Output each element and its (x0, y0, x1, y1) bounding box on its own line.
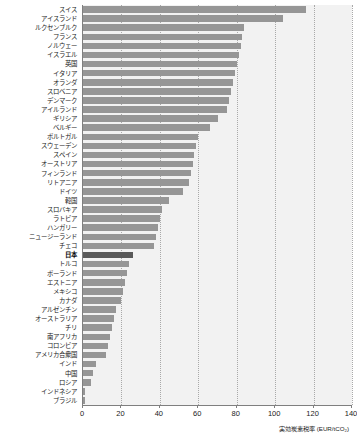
category-label: チェコ (59, 242, 77, 249)
bar-row (83, 215, 352, 222)
bar-row (83, 52, 352, 59)
category-label: スペイン (53, 151, 77, 158)
category-label: ポーランド (47, 270, 77, 277)
category-label: ポルトガル (47, 133, 77, 140)
x-tick-140 (351, 405, 352, 408)
bar (83, 379, 91, 386)
category-label: メキシコ (53, 288, 77, 295)
category-label: 南アフリカ (47, 333, 77, 340)
bar-row (83, 270, 352, 277)
bar-row (83, 306, 352, 313)
bar (83, 234, 156, 241)
bar-row (83, 115, 352, 122)
x-tick-label: 140 (345, 409, 357, 418)
x-tick-40 (159, 405, 160, 408)
bar-row (83, 152, 352, 159)
bar-row (83, 97, 352, 104)
category-label: インド (59, 360, 77, 367)
category-label: ラトビア (53, 215, 77, 222)
category-label: ロシア (59, 379, 77, 386)
bar-row (83, 15, 352, 22)
x-tick-20 (120, 405, 121, 408)
category-label: ノルウェー (47, 42, 77, 49)
bar (83, 324, 112, 331)
bar-row (83, 70, 352, 77)
bar (83, 370, 93, 377)
category-label: リトアニア (47, 179, 77, 186)
category-label: ハンガリー (47, 224, 77, 231)
bar (83, 334, 110, 341)
bar (83, 315, 114, 322)
bar (83, 43, 241, 50)
bar-row (83, 334, 352, 341)
bar-row (83, 79, 352, 86)
x-tick-label: 0 (80, 409, 84, 418)
bar (83, 297, 121, 304)
bar (83, 134, 198, 141)
category-label: ベルギー (53, 124, 77, 131)
x-tick-label: 40 (155, 409, 163, 418)
x-tick-80 (236, 405, 237, 408)
x-tick-label: 100 (268, 409, 281, 418)
category-label: ドイツ (59, 188, 77, 195)
x-tick-label: 20 (116, 409, 124, 418)
category-label: デンマーク (47, 97, 77, 104)
bar-row (83, 324, 352, 331)
bar (83, 361, 96, 368)
category-label: アイスランド (41, 15, 77, 22)
bar (83, 6, 306, 13)
category-label: コロンビア (47, 342, 77, 349)
category-label: 英国 (65, 60, 77, 67)
category-label: ギリシア (53, 115, 77, 122)
bar (83, 352, 106, 359)
bar (83, 270, 127, 277)
bar (83, 88, 231, 95)
category-label: チリ (65, 324, 77, 331)
bar-row (83, 161, 352, 168)
bar (83, 343, 108, 350)
category-label: カナダ (59, 297, 77, 304)
bar-row (83, 243, 352, 250)
bar-row (83, 179, 352, 186)
category-label: アイルランド (41, 106, 77, 113)
category-label: オランダ (53, 79, 77, 86)
category-label: フィンランド (41, 170, 77, 177)
category-label: ルクセンブルク (35, 24, 77, 31)
bar (83, 79, 233, 86)
bar (83, 152, 194, 159)
bar-row (83, 61, 352, 68)
bar-row (83, 261, 352, 268)
category-label: フランス (53, 33, 77, 40)
category-label: ニュージーランド (29, 233, 77, 240)
plot-area (82, 5, 352, 405)
bar-row (83, 143, 352, 150)
bar (83, 224, 158, 231)
x-tick-0 (82, 405, 83, 408)
bar-row (83, 397, 352, 404)
bar-row (83, 188, 352, 195)
bar-row (83, 124, 352, 131)
bar-row (83, 170, 352, 177)
bar (83, 197, 169, 204)
category-axis-labels: スイスアイスランドルクセンブルクフランスノルウェーイスラエル英国イタリアオランダ… (0, 5, 80, 405)
category-label: インドネシア (41, 388, 77, 395)
bar (83, 306, 116, 313)
x-tick-label: 80 (232, 409, 240, 418)
bars-container (83, 5, 352, 405)
category-label: 韓国 (65, 197, 77, 204)
bar-row (83, 43, 352, 50)
bar (83, 206, 162, 213)
bar (83, 288, 123, 295)
bar-row (83, 343, 352, 350)
bar-row (83, 197, 352, 204)
bar (83, 161, 193, 168)
bar-row (83, 288, 352, 295)
bar (83, 115, 218, 122)
bar (83, 106, 227, 113)
bar (83, 243, 154, 250)
bar (83, 97, 229, 104)
bar-row (83, 134, 352, 141)
bar-row (83, 379, 352, 386)
x-tick-120 (313, 405, 314, 408)
